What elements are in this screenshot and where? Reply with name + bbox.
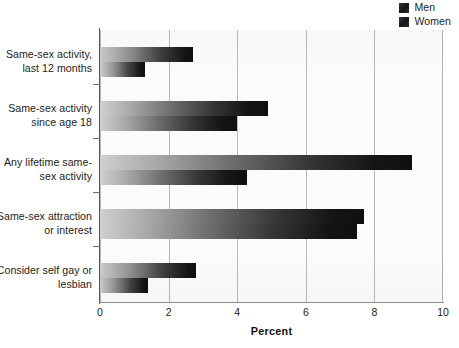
legend-swatch-icon-women bbox=[399, 17, 409, 27]
y-axis-line bbox=[99, 28, 100, 304]
bar-women-same-sex-activity-since-age-18 bbox=[100, 116, 237, 131]
plot-area bbox=[100, 30, 443, 302]
category-label-line: Same-sex activity bbox=[0, 102, 92, 116]
x-tick-label-6: 6 bbox=[303, 306, 309, 318]
category-label-same-sex-activity-last-12-months: Same-sex activity, last 12 months bbox=[0, 48, 92, 75]
group-separator-tick-2 bbox=[93, 138, 100, 139]
horizontal-bar-chart: Men Women Same-s bbox=[0, 0, 459, 348]
category-label-line: since age 18 bbox=[0, 116, 92, 130]
x-axis-line bbox=[99, 302, 444, 303]
bar-men-consider-self-gay-or-lesbian bbox=[100, 263, 196, 278]
x-axis-title: Percent bbox=[100, 325, 443, 337]
group-separator-tick-3 bbox=[93, 192, 100, 193]
category-label-line: Consider self gay or bbox=[0, 264, 92, 278]
category-label-line: Same-sex attraction bbox=[0, 210, 92, 224]
category-label-line: lesbian bbox=[0, 278, 92, 292]
bar-men-any-lifetime-same-sex-activity bbox=[100, 155, 412, 170]
x-tick-label-4: 4 bbox=[234, 306, 240, 318]
category-label-line: sex activity bbox=[0, 170, 92, 184]
legend-swatch-icon-men bbox=[399, 3, 409, 13]
bar-women-same-sex-attraction-or-interest bbox=[100, 224, 357, 239]
category-label-consider-self-gay-or-lesbian: Consider self gay or lesbian bbox=[0, 264, 92, 291]
category-label-line: or interest bbox=[0, 224, 92, 238]
bar-men-same-sex-activity-last-12-months bbox=[100, 47, 193, 62]
category-label-same-sex-attraction-or-interest: Same-sex attraction or interest bbox=[0, 210, 92, 237]
x-tick-label-8: 8 bbox=[371, 306, 377, 318]
bar-women-consider-self-gay-or-lesbian bbox=[100, 278, 148, 293]
x-tick-label-0: 0 bbox=[97, 306, 103, 318]
category-label-line: Any lifetime same- bbox=[0, 156, 92, 170]
x-tick-label-2: 2 bbox=[166, 306, 172, 318]
category-label-any-lifetime-same-sex-activity: Any lifetime same- sex activity bbox=[0, 156, 92, 183]
legend-item-men: Men bbox=[399, 2, 436, 13]
bar-men-same-sex-attraction-or-interest bbox=[100, 209, 364, 224]
group-separator-tick-4 bbox=[93, 246, 100, 247]
category-label-line: Same-sex activity, bbox=[0, 48, 92, 62]
gridline-10 bbox=[442, 30, 443, 302]
category-label-same-sex-activity-since-age-18: Same-sex activity since age 18 bbox=[0, 102, 92, 129]
group-separator-tick-1 bbox=[93, 84, 100, 85]
chart-legend: Men Women bbox=[399, 2, 452, 27]
bar-women-same-sex-activity-last-12-months bbox=[100, 62, 145, 77]
x-tick-label-10: 10 bbox=[437, 306, 449, 318]
bar-men-same-sex-activity-since-age-18 bbox=[100, 101, 268, 116]
bar-women-any-lifetime-same-sex-activity bbox=[100, 170, 247, 185]
legend-item-women: Women bbox=[399, 16, 452, 27]
category-label-line: last 12 months bbox=[0, 62, 92, 76]
legend-label-men: Men bbox=[415, 2, 436, 13]
legend-label-women: Women bbox=[415, 16, 452, 27]
